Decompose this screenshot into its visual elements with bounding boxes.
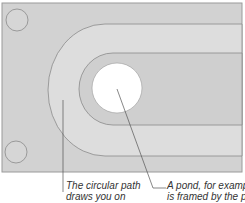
caption-line: draws you on xyxy=(66,191,140,202)
caption-line: The circular path xyxy=(66,180,140,191)
caption-circular-path: The circular path draws you on xyxy=(66,180,140,202)
caption-line: is framed by the path xyxy=(167,191,245,202)
caption-pond: A pond, for example, is framed by the pa… xyxy=(167,180,245,202)
garden-plan-diagram xyxy=(0,0,245,203)
corner-feature-bottom-left xyxy=(5,141,27,163)
corner-feature-top-left xyxy=(6,9,28,31)
pond xyxy=(92,63,142,113)
caption-line: A pond, for example, xyxy=(167,180,245,191)
